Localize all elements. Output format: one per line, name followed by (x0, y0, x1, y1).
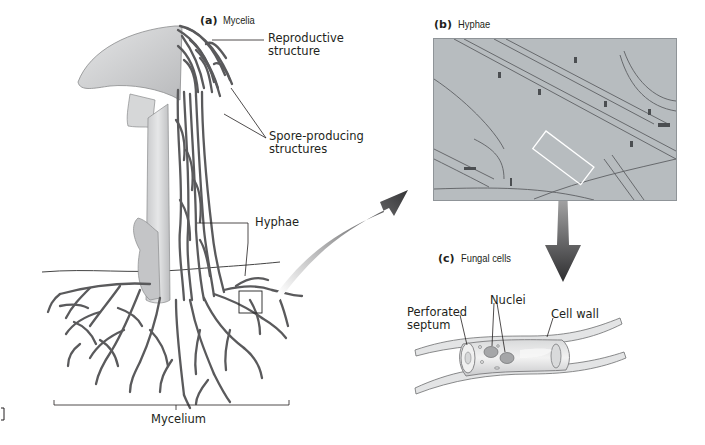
label-line: septum (407, 319, 467, 332)
label-line: structure (268, 45, 344, 58)
panel-c-title: (c)Fungal cells (438, 252, 519, 265)
label-nuclei: Nuclei (490, 294, 526, 307)
mushroom-cap (78, 26, 182, 100)
panel-a-name: Mycelia (223, 14, 255, 26)
label-mycelium: Mycelium (151, 413, 206, 426)
panel-b-name: Hyphae (458, 18, 490, 30)
panel-c-letter: (c) (438, 252, 455, 265)
micrograph-hyphae-lines (434, 39, 676, 200)
edge-bracket (1, 408, 4, 420)
label-reproductive-structure: Reproductive structure (268, 32, 344, 58)
panel-a-title: (a)Mycelia (200, 14, 261, 27)
label-perforated-septum: Perforated septum (407, 306, 467, 332)
arrow-a-to-b (272, 190, 408, 302)
panel-b-title: (b)Hyphae (434, 18, 496, 31)
label-hyphae: Hyphae (255, 216, 299, 229)
mushroom-volva (134, 218, 160, 300)
panel-b-letter: (b) (434, 18, 452, 31)
panel-a-letter: (a) (200, 14, 217, 27)
micrograph-detail-box (533, 131, 594, 185)
label-cell-wall: Cell wall (551, 308, 599, 321)
hyphae-micrograph (433, 38, 677, 201)
panel-c-name: Fungal cells (461, 252, 511, 264)
label-spore-producing-structures: Spore-producing structures (269, 130, 364, 156)
label-line: structures (269, 143, 364, 156)
